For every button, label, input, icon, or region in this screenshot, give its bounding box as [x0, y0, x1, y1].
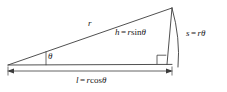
arc-argument: θ [201, 28, 205, 38]
diagram-canvas [0, 0, 227, 92]
label-height-equation: h=rsinθ [115, 28, 146, 37]
label-angle-theta-text: θ [48, 51, 52, 61]
base-equals: = [79, 75, 87, 85]
height-equals: = [120, 27, 128, 37]
arc-s-curve [172, 8, 179, 67]
label-base-equation: l=rcosθ [76, 76, 107, 85]
height-opposite-line [167, 8, 172, 64]
right-angle-marker-icon [157, 55, 166, 64]
trigonometry-diagram: r θ h=rsinθ s=rθ l=rcosθ [0, 0, 227, 92]
arc-equals: = [190, 28, 198, 38]
baseline-adjacent-line [8, 64, 172, 65]
height-variable: h [115, 27, 120, 37]
label-radius-r-text: r [88, 18, 92, 28]
label-arc-equation: s=rθ [186, 29, 206, 38]
arc-variable: s [186, 28, 190, 38]
label-radius-r: r [88, 19, 92, 28]
label-angle-theta: θ [48, 52, 52, 61]
height-argument: θ [142, 27, 146, 37]
height-function: sin [131, 27, 142, 37]
base-function: cos [90, 75, 102, 85]
base-argument: θ [102, 75, 106, 85]
hypotenuse-radius-line [8, 8, 172, 65]
